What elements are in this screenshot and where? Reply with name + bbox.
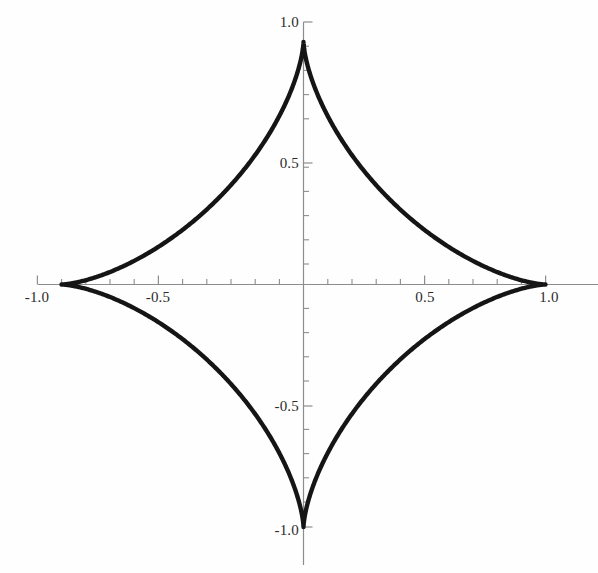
x-axis-minor-ticks [62, 279, 522, 285]
x-tick-label-pos-one: 1.0 [539, 289, 558, 306]
y-tick-label-neg-half: -0.5 [274, 398, 299, 415]
x-tick-label-neg-one: -1.0 [25, 289, 50, 306]
y-tick-label-neg-one: -1.0 [274, 522, 299, 539]
x-tick-label-neg-half: -0.5 [146, 289, 171, 306]
x-tick-label-pos-half: 0.5 [415, 289, 434, 306]
y-tick-label-pos-one: 1.0 [280, 14, 299, 31]
y-axis-minor-ticks [304, 46, 310, 502]
y-axis-major-ticks [304, 22, 313, 527]
y-tick-label-pos-half: 0.5 [280, 155, 299, 172]
axes-group [38, 22, 598, 565]
astroid-plot-figure: -1.0 -0.5 0.5 1.0 1.0 0.5 -0.5 -1.0 [0, 0, 598, 573]
x-axis-major-ticks [37, 276, 545, 285]
plot-canvas [0, 0, 598, 573]
